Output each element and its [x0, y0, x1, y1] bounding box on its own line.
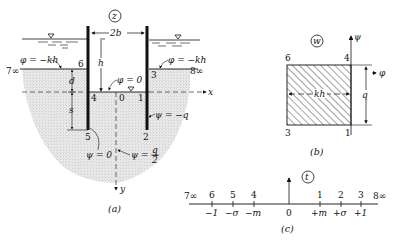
q-label: q: [362, 90, 368, 100]
t-value-pos-1: +1: [354, 208, 367, 218]
point-1: 1: [138, 93, 144, 103]
psi-minus-q-label: ψ = −q: [155, 110, 189, 120]
caption-a: (a): [108, 203, 121, 214]
w-plane-label: w: [313, 36, 321, 46]
t-point-1: 1: [317, 190, 323, 200]
t-value-neg-m: −m: [245, 208, 261, 218]
caption-c: (c): [281, 223, 294, 234]
z-plane-label: z: [111, 11, 117, 21]
t-point-5: 5: [230, 190, 236, 200]
t-value-neg-1: −1: [205, 208, 218, 218]
water-level-icon: [128, 87, 134, 91]
point-3: 3: [151, 70, 157, 80]
water-level-icon: [175, 35, 181, 39]
t-point-4: 4: [251, 190, 257, 200]
point-6: 6: [78, 59, 84, 69]
t-plane-label: t: [305, 172, 309, 182]
point-4: 4: [91, 93, 97, 103]
kh-label: kh: [314, 89, 325, 99]
t-point-3: 3: [358, 190, 364, 200]
s-label: s: [69, 105, 74, 115]
water-level-icon: [48, 34, 54, 38]
point-5: 5: [85, 132, 91, 142]
caption-b: (b): [310, 146, 324, 157]
corner-1: 1: [345, 128, 351, 138]
point-8-inf: 8∞: [190, 66, 203, 76]
figure-c-t-plane: t 7∞ 6 5 4 1 2 3 8∞ −1 −σ −m 0 +m +σ +1 …: [184, 171, 386, 234]
t-value-zero: 0: [286, 208, 292, 218]
h-label: h: [98, 58, 104, 68]
phi-left-label: φ = −kh: [20, 55, 58, 65]
phi-zero-label: φ = 0: [117, 75, 143, 85]
d-label: d: [69, 76, 75, 86]
water-right: [149, 35, 200, 46]
x-axis-label: x: [208, 87, 213, 97]
t-point-6: 6: [209, 190, 215, 200]
conformal-mapping-figure: 2b z h φ = 0 φ = −kh φ = −kh x y d s: [0, 0, 396, 246]
water-left: [22, 34, 88, 48]
point-0: 0: [119, 93, 125, 103]
psi-half-q-denominator: 2: [151, 155, 158, 165]
corner-6: 6: [285, 53, 291, 63]
sheet-pile-left: [87, 26, 90, 130]
t-point-8-inf: 8∞: [373, 191, 386, 201]
sheet-pile-right: [146, 26, 149, 130]
point-7-inf: 7∞: [6, 66, 19, 76]
t-point-7-inf: 7∞: [184, 191, 197, 201]
figure-b-w-plane: w ψ φ kh q 6 4 3 1 (b): [285, 32, 386, 157]
psi-half-q-numerator: q: [152, 145, 158, 155]
figure-a-z-plane: 2b z h φ = 0 φ = −kh φ = −kh x y d s: [6, 10, 213, 214]
t-value-pos-m: +m: [311, 208, 327, 218]
point-2: 2: [143, 132, 149, 142]
corner-3: 3: [285, 128, 291, 138]
soil-region: [22, 69, 190, 183]
t-value-pos-sigma: +σ: [333, 208, 348, 218]
phi-axis-label: φ: [379, 68, 386, 78]
y-axis-label: y: [119, 184, 126, 194]
t-point-2: 2: [338, 190, 344, 200]
t-value-neg-sigma: −σ: [225, 208, 240, 218]
psi-axis-label: ψ: [354, 32, 362, 42]
corner-4: 4: [344, 53, 350, 63]
width-label: 2b: [109, 28, 122, 38]
phi-right-label: φ = −kh: [168, 55, 206, 65]
psi-zero-label: ψ = 0: [86, 150, 112, 160]
